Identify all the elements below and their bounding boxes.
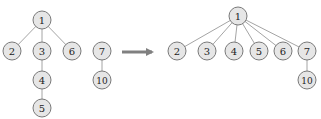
left-node-1: 1 — [33, 11, 51, 29]
right-node-6: 6 — [274, 42, 292, 60]
node-label: 7 — [99, 46, 105, 57]
right-node-4: 4 — [225, 42, 243, 60]
left-node-4: 4 — [33, 71, 51, 89]
left-tree-nodes: 123645710 — [3, 11, 111, 117]
node-label: 6 — [69, 46, 75, 57]
node-label: 2 — [174, 46, 180, 57]
left-node-6: 6 — [63, 42, 81, 60]
right-node-2: 2 — [168, 42, 186, 60]
diagram-canvas: 123645710 123456710 — [0, 0, 321, 119]
node-label: 10 — [301, 76, 313, 86]
node-label: 4 — [231, 46, 237, 57]
tree-diagram: 123645710 123456710 — [0, 0, 321, 119]
node-label: 6 — [280, 46, 286, 57]
node-label: 1 — [235, 11, 241, 22]
right-node-1: 1 — [229, 7, 247, 25]
node-label: 3 — [204, 46, 210, 57]
left-node-2: 2 — [3, 42, 21, 60]
right-tree-nodes: 123456710 — [168, 7, 316, 89]
node-label: 1 — [39, 15, 45, 26]
right-node-7: 7 — [298, 42, 316, 60]
left-node-7: 7 — [93, 42, 111, 60]
right-node-10: 10 — [298, 71, 316, 89]
node-label: 4 — [39, 75, 45, 86]
left-node-3: 3 — [33, 42, 51, 60]
left-node-5: 5 — [33, 99, 51, 117]
node-label: 10 — [96, 76, 108, 86]
left-node-10: 10 — [93, 71, 111, 89]
right-node-5: 5 — [250, 42, 268, 60]
node-label: 2 — [9, 46, 15, 57]
left-tree-edges — [12, 20, 102, 108]
right-node-3: 3 — [198, 42, 216, 60]
node-label: 5 — [39, 103, 45, 114]
node-label: 5 — [256, 46, 262, 57]
node-label: 7 — [304, 46, 310, 57]
node-label: 3 — [39, 46, 45, 57]
